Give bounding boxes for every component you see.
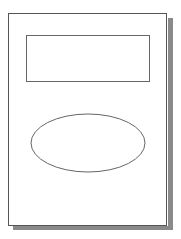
ellipse-shape — [0, 0, 181, 239]
